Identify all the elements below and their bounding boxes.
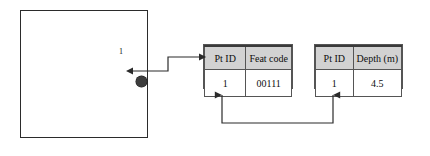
column-header-pt-id: Pt ID [205, 46, 246, 70]
map-extent-box [20, 10, 148, 138]
table-row[interactable]: 1 4.5 [316, 70, 402, 97]
cell-pt-id: 1 [205, 70, 246, 97]
cell-depth: 4.5 [353, 70, 401, 97]
feature-code-table[interactable]: Pt ID Feat code 1 00111 [203, 44, 293, 89]
diagram-canvas: 1 Pt ID Feat code 1 00111 Pt ID [0, 0, 430, 156]
column-header-pt-id: Pt ID [316, 46, 354, 70]
depth-table[interactable]: Pt ID Depth (m) 1 4.5 [314, 44, 403, 89]
table-row[interactable]: 1 00111 [205, 70, 292, 97]
cell-feat-code: 00111 [246, 70, 292, 97]
column-header-depth: Depth (m) [353, 46, 401, 70]
table-header-row: Pt ID Feat code [205, 46, 292, 70]
table-header-row: Pt ID Depth (m) [316, 46, 402, 70]
arrow-table-join-pt-id [222, 95, 333, 123]
column-header-feat-code: Feat code [246, 46, 292, 70]
cell-pt-id: 1 [316, 70, 354, 97]
map-point-marker[interactable] [136, 76, 147, 87]
map-point-label: 1 [112, 47, 130, 56]
